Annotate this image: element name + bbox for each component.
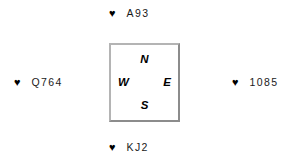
hand-south: ♥ KJ2 xyxy=(109,142,149,153)
heart-suit-icon: ♥ xyxy=(109,142,116,153)
heart-suit-icon: ♥ xyxy=(109,8,116,19)
heart-suit-icon: ♥ xyxy=(232,77,239,88)
compass-label-north: N xyxy=(140,54,148,66)
compass-label-south: S xyxy=(141,100,149,112)
hand-north-cards: A93 xyxy=(127,8,150,19)
hand-east-cards: 1085 xyxy=(250,77,279,88)
hand-west: ♥ Q764 xyxy=(14,77,63,88)
bridge-suit-diagram: ♥ A93 ♥ Q764 ♥ 1085 ♥ KJ2 N W E S xyxy=(0,0,300,167)
hand-east: ♥ 1085 xyxy=(232,77,279,88)
hand-north: ♥ A93 xyxy=(109,8,149,19)
compass-label-east: E xyxy=(163,77,171,89)
hand-south-cards: KJ2 xyxy=(127,142,149,153)
heart-suit-icon: ♥ xyxy=(14,77,21,88)
hand-west-cards: Q764 xyxy=(32,77,63,88)
compass-label-west: W xyxy=(118,77,129,89)
compass-box: N W E S xyxy=(109,43,180,122)
